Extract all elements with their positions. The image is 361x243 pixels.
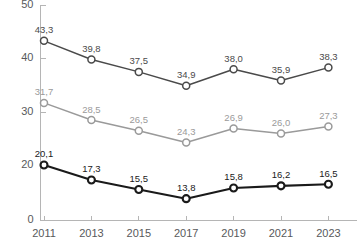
y-tick-label: 20 [21,158,33,170]
y-tick-label: 0 [27,213,33,225]
data-point-marker[interactable] [230,184,237,191]
data-point-marker[interactable] [183,139,190,146]
data-point-label: 38,0 [224,53,243,64]
data-point-marker[interactable] [278,130,285,137]
data-label-layer: 31,728,526,524,326,926,027,343,339,837,5… [35,24,338,193]
chart-canvas: 020304050 2011201320152017201920212023 3… [0,0,361,243]
data-point-label: 13,8 [177,182,196,193]
data-point-marker[interactable] [41,99,48,106]
data-point-marker[interactable] [325,64,332,71]
data-point-marker[interactable] [183,82,190,89]
data-point-marker[interactable] [325,123,332,130]
data-point-marker[interactable] [88,56,95,63]
data-point-label: 15,5 [130,173,149,184]
data-point-marker[interactable] [135,186,142,193]
data-point-label: 16,2 [272,169,291,180]
x-axis: 2011201320152017201920212023 [32,216,357,239]
x-tick-label-2023: 2023 [316,227,340,239]
data-point-marker[interactable] [135,68,142,75]
data-point-label: 39,8 [82,43,101,54]
data-point-label: 26,9 [224,112,243,123]
data-point-label: 17,3 [82,163,101,174]
data-point-label: 16,5 [319,168,338,179]
data-point-label: 31,7 [35,86,54,97]
data-point-marker[interactable] [88,176,95,183]
data-point-marker[interactable] [41,161,48,168]
data-point-label: 26,0 [272,117,291,128]
x-tick-label-2019: 2019 [221,227,245,239]
line-chart: 020304050 2011201320152017201920212023 3… [0,0,361,243]
data-point-marker[interactable] [278,77,285,84]
data-point-label: 35,9 [272,64,291,75]
data-point-marker[interactable] [230,125,237,132]
data-point-label: 34,9 [177,69,196,80]
data-point-label: 28,5 [82,104,101,115]
data-point-marker[interactable] [135,127,142,134]
data-point-marker[interactable] [41,37,48,44]
data-point-label: 24,3 [177,126,196,137]
x-tick-label-2017: 2017 [174,227,198,239]
data-point-label: 43,3 [35,24,54,35]
data-point-label: 26,5 [130,114,149,125]
y-tick-label: 40 [21,51,33,63]
data-point-marker[interactable] [325,181,332,188]
data-point-marker[interactable] [230,66,237,73]
x-tick-label-2011: 2011 [32,227,56,239]
data-point-label: 15,8 [224,171,243,182]
x-tick-label-2021: 2021 [269,227,293,239]
data-point-label: 27,3 [319,110,338,121]
data-point-marker[interactable] [183,195,190,202]
data-point-marker[interactable] [88,117,95,124]
data-point-label: 38,3 [319,51,338,62]
x-tick-label-2013: 2013 [79,227,103,239]
data-point-label: 20,1 [35,148,54,159]
data-point-marker[interactable] [278,182,285,189]
data-point-label: 37,5 [130,55,149,66]
y-tick-label: 50 [21,0,33,10]
x-tick-label-2015: 2015 [127,227,151,239]
y-tick-label: 30 [21,105,33,117]
